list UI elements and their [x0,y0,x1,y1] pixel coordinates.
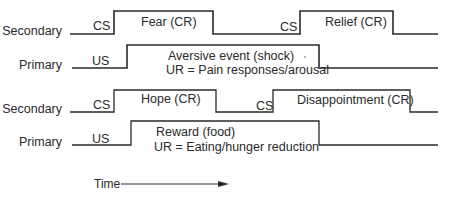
aversive-ur-label: UR = Pain responses/arousal [166,64,329,77]
hope-cr-label: Hope (CR) [141,93,201,106]
row-label-secondary-1: Secondary [0,25,62,38]
time-axis-label: Time [94,178,120,190]
us-label: US [92,55,109,68]
cs-label: CS [93,20,110,33]
reward-food-label: Reward (food) [156,126,235,139]
us-label: US [92,133,109,146]
row-label-primary-1: Primary [0,59,62,72]
reward-ur-label: UR = Eating/hunger reduction [154,141,319,154]
disappointment-cr-label: Disappointment (CR) [297,94,414,107]
row-label-primary-2: Primary [0,136,62,149]
aversive-event-label: Aversive event (shock) [168,50,294,63]
row-label-secondary-2: Secondary [0,103,62,116]
cs-label: CS [256,100,273,113]
cs-label: CS [93,99,110,112]
relief-cr-label: Relief (CR) [325,16,387,29]
time-arrowhead-icon [218,181,229,187]
dot-mark [304,56,306,58]
cs-label: CS [280,21,297,34]
fear-cr-label: Fear (CR) [141,16,197,29]
